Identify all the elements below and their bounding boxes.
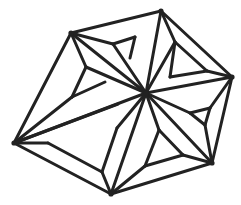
pattern-line xyxy=(14,33,71,143)
vertex-dot xyxy=(143,90,148,95)
pattern-line xyxy=(102,128,117,172)
pattern-line xyxy=(48,143,102,172)
vertex-dot xyxy=(158,8,163,13)
pattern-line xyxy=(71,11,161,33)
pattern-line xyxy=(159,130,183,155)
vertex-dot xyxy=(209,160,214,165)
pattern-line xyxy=(175,42,207,71)
pattern-edges xyxy=(14,11,232,194)
pattern-line xyxy=(190,108,210,113)
pattern-line xyxy=(146,77,232,93)
pattern-line xyxy=(145,130,159,166)
pattern-line xyxy=(111,163,212,194)
vertex-dot xyxy=(229,74,234,79)
star-pattern-diagram xyxy=(0,0,241,205)
pattern-line xyxy=(170,71,207,77)
pattern-line xyxy=(113,37,135,44)
pattern-line xyxy=(14,97,72,143)
vertex-dot xyxy=(68,30,73,35)
vertex-dot xyxy=(11,140,16,145)
pattern-line xyxy=(130,37,135,58)
pattern-line xyxy=(145,155,183,166)
vertex-dot xyxy=(108,191,113,196)
pattern-line xyxy=(190,113,205,125)
